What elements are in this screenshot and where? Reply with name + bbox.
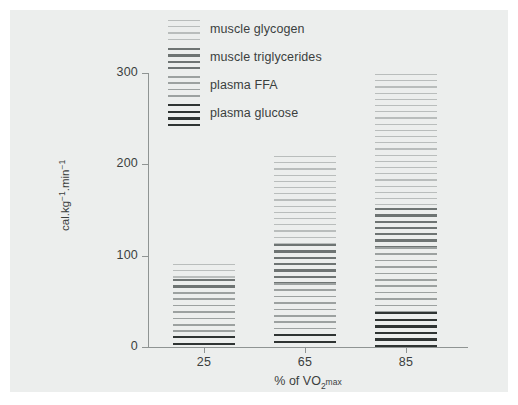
bar-segment-65-muscle-glycogen bbox=[274, 156, 336, 244]
y-tick-200 bbox=[142, 164, 148, 165]
bar-segment-85-muscle-glycogen bbox=[375, 74, 437, 208]
bar-85[interactable] bbox=[375, 74, 437, 347]
y-axis-label-a: cal.kg bbox=[59, 201, 71, 231]
bar-segment-25-muscle-triglycerides bbox=[173, 279, 235, 292]
x-axis-label: % of VO2max bbox=[148, 374, 468, 391]
y-tick-label-300: 300 bbox=[96, 65, 138, 79]
bar-segment-85-muscle-triglycerides bbox=[375, 208, 437, 246]
y-axis-label: cal.kg−1.min−1 bbox=[57, 135, 72, 255]
x-tick-label-65: 65 bbox=[275, 355, 335, 369]
legend-label-plasma-ffa: plasma FFA bbox=[210, 78, 278, 92]
legend-label-muscle-glycogen: muscle glycogen bbox=[210, 22, 305, 36]
bar-segment-25-plasma-FFA bbox=[173, 292, 235, 336]
y-tick-0 bbox=[142, 347, 148, 348]
bar-65[interactable] bbox=[274, 156, 336, 347]
y-tick-300 bbox=[142, 73, 148, 74]
y-tick-label-100: 100 bbox=[96, 248, 138, 262]
y-axis-line bbox=[148, 73, 149, 348]
y-axis-label-b: .min bbox=[59, 170, 71, 192]
y-axis-label-sup2: −1 bbox=[57, 160, 67, 170]
bar-segment-25-plasma-glucose bbox=[173, 336, 235, 347]
x-axis-label-prefix: % of VO bbox=[274, 374, 321, 388]
bar-segment-65-plasma-glucose bbox=[274, 334, 336, 347]
x-axis-label-suffix: max bbox=[326, 377, 342, 387]
x-axis-line bbox=[148, 347, 468, 348]
y-axis-label-sup1: −1 bbox=[57, 191, 67, 201]
x-tick-85 bbox=[406, 348, 407, 353]
bar-segment-85-plasma-glucose bbox=[375, 312, 437, 347]
bar-segment-25-muscle-glycogen bbox=[173, 264, 235, 280]
legend-label-plasma-glucose: plasma glucose bbox=[210, 106, 298, 120]
chart-panel: muscle glycogen muscle triglycerides pla… bbox=[10, 10, 508, 392]
legend-swatch-muscle-glycogen-icon bbox=[168, 20, 200, 42]
y-tick-100 bbox=[142, 256, 148, 257]
y-tick-label-0: 0 bbox=[96, 339, 138, 353]
legend-swatch-muscle-triglycerides-icon bbox=[168, 48, 200, 70]
bar-segment-85-plasma-FFA bbox=[375, 247, 437, 313]
x-tick-25 bbox=[204, 348, 205, 353]
x-tick-65 bbox=[305, 348, 306, 353]
x-tick-label-85: 85 bbox=[376, 355, 436, 369]
x-tick-label-25: 25 bbox=[174, 355, 234, 369]
plot-area: muscle glycogen muscle triglycerides pla… bbox=[10, 10, 508, 392]
legend-swatch-plasma-glucose-icon bbox=[168, 104, 200, 126]
legend-swatch-plasma-ffa-icon bbox=[168, 76, 200, 98]
bar-25[interactable] bbox=[173, 264, 235, 347]
legend-label-muscle-triglycerides: muscle triglycerides bbox=[210, 50, 322, 64]
y-tick-label-200: 200 bbox=[96, 156, 138, 170]
bar-segment-65-plasma-FFA bbox=[274, 283, 336, 334]
bar-segment-65-muscle-triglycerides bbox=[274, 244, 336, 283]
